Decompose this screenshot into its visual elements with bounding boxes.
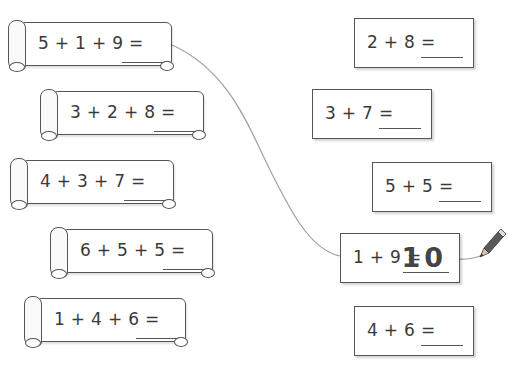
answer-blank[interactable]	[163, 269, 205, 270]
equation-text: 5 + 1 + 9 =	[38, 33, 144, 53]
equation-scroll-5: 1 + 4 + 6 =	[24, 296, 186, 348]
equation-text: 3 + 7 =	[325, 103, 393, 123]
equation-card-3: 5 + 5 =	[372, 162, 492, 212]
equation-scroll-2: 3 + 2 + 8 =	[40, 89, 204, 141]
answer-blank[interactable]	[421, 57, 463, 58]
answer-blank[interactable]	[379, 128, 421, 129]
matching-line	[170, 44, 340, 256]
equation-text: 4 + 6 =	[367, 320, 435, 340]
pencil-icon	[480, 229, 506, 257]
equation-scroll-3: 4 + 3 + 7 =	[10, 158, 174, 210]
answer-blank[interactable]	[136, 338, 178, 339]
equation-text: 4 + 3 + 7 =	[40, 171, 146, 191]
answer-blank[interactable]	[122, 62, 164, 63]
equation-scroll-1: 5 + 1 + 9 =	[8, 20, 172, 72]
equation-text: 5 + 5 =	[385, 176, 453, 196]
answer-blank[interactable]	[154, 131, 196, 132]
equation-text: 2 + 8 =	[367, 32, 435, 52]
equation-card-4: 1 + 9 = 10	[340, 233, 460, 283]
equation-text: 3 + 2 + 8 =	[70, 102, 176, 122]
answer-blank[interactable]	[421, 345, 463, 346]
answer-blank[interactable]	[439, 201, 481, 202]
equation-scroll-4: 6 + 5 + 5 =	[50, 227, 213, 279]
written-answer: 10	[401, 242, 447, 273]
answer-blank[interactable]	[124, 200, 166, 201]
equation-text: 6 + 5 + 5 =	[80, 240, 186, 260]
equation-card-2: 3 + 7 =	[312, 89, 432, 139]
equation-text: 1 + 4 + 6 =	[54, 309, 160, 329]
equation-card-1: 2 + 8 =	[354, 18, 474, 68]
pencil-line	[459, 256, 480, 259]
answer-blank[interactable]	[403, 272, 449, 273]
equation-card-5: 4 + 6 =	[354, 306, 474, 356]
